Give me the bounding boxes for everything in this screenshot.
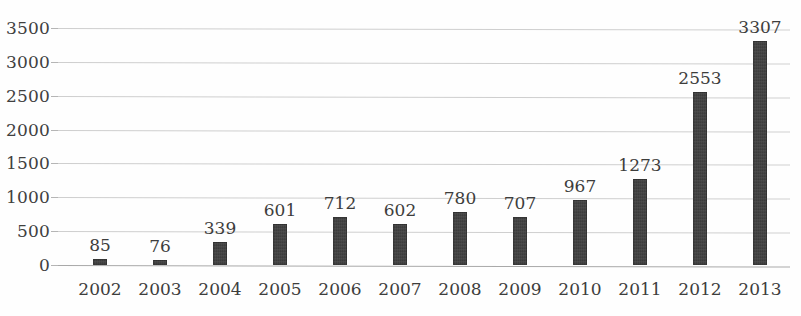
bar-chart: 0500100015002000250030003500 85200276200… bbox=[0, 0, 801, 316]
bar-group: 7122006 bbox=[310, 0, 370, 316]
y-axis: 0500100015002000250030003500 bbox=[0, 0, 50, 316]
bar-value-label: 602 bbox=[370, 202, 430, 219]
bar[interactable] bbox=[213, 242, 227, 265]
y-axis-tick-mark bbox=[51, 96, 58, 97]
bar-group: 6022007 bbox=[370, 0, 430, 316]
bar-group: 33072013 bbox=[730, 0, 790, 316]
bar-group: 25532012 bbox=[670, 0, 730, 316]
bar-value-label: 85 bbox=[70, 237, 130, 254]
x-axis-category-label: 2006 bbox=[310, 281, 370, 298]
y-axis-tick-mark bbox=[51, 231, 58, 232]
bar[interactable] bbox=[333, 217, 347, 265]
bar[interactable] bbox=[513, 217, 527, 265]
bar-group: 852002 bbox=[70, 0, 130, 316]
x-axis-category-label: 2002 bbox=[70, 281, 130, 298]
plot-area: 8520027620033392004601200571220066022007… bbox=[58, 0, 790, 316]
y-axis-tick-mark bbox=[51, 265, 58, 266]
bar-value-label: 601 bbox=[250, 202, 310, 219]
y-axis-tick-mark bbox=[51, 163, 58, 164]
bar-group: 3392004 bbox=[190, 0, 250, 316]
y-axis-tick-mark bbox=[51, 130, 58, 131]
bar-value-label: 967 bbox=[550, 178, 610, 195]
bar-group: 7072009 bbox=[490, 0, 550, 316]
y-axis-tick-label: 3000 bbox=[2, 53, 50, 70]
bars-layer: 8520027620033392004601200571220066022007… bbox=[58, 0, 790, 316]
x-axis-category-label: 2008 bbox=[430, 281, 490, 298]
bar[interactable] bbox=[693, 92, 707, 265]
bar-value-label: 712 bbox=[310, 195, 370, 212]
y-axis-tick-mark bbox=[51, 62, 58, 63]
y-axis-tick-label: 2000 bbox=[2, 121, 50, 138]
y-axis-tick-mark bbox=[51, 197, 58, 198]
x-axis-category-label: 2013 bbox=[730, 281, 790, 298]
bar-value-label: 339 bbox=[190, 220, 250, 237]
x-axis-category-label: 2007 bbox=[370, 281, 430, 298]
bar-group: 6012005 bbox=[250, 0, 310, 316]
y-axis-tick-mark bbox=[51, 28, 58, 29]
bar-value-label: 707 bbox=[490, 195, 550, 212]
bar[interactable] bbox=[453, 212, 467, 265]
x-axis-category-label: 2009 bbox=[490, 281, 550, 298]
bar[interactable] bbox=[753, 41, 767, 265]
y-axis-tick-label: 2500 bbox=[2, 87, 50, 104]
bar[interactable] bbox=[393, 224, 407, 265]
y-axis-tick-label: 1000 bbox=[2, 189, 50, 206]
x-axis-category-label: 2012 bbox=[670, 281, 730, 298]
x-axis-category-label: 2003 bbox=[130, 281, 190, 298]
bar-group: 12732011 bbox=[610, 0, 670, 316]
x-axis-category-label: 2011 bbox=[610, 281, 670, 298]
bar-group: 7802008 bbox=[430, 0, 490, 316]
bar[interactable] bbox=[153, 260, 167, 265]
bar-value-label: 1273 bbox=[610, 157, 670, 174]
x-axis-category-label: 2005 bbox=[250, 281, 310, 298]
bar-value-label: 780 bbox=[430, 190, 490, 207]
y-axis-tick-label: 3500 bbox=[2, 20, 50, 37]
bar[interactable] bbox=[633, 179, 647, 265]
bar-group: 762003 bbox=[130, 0, 190, 316]
y-axis-tick-label: 500 bbox=[2, 223, 50, 240]
bar[interactable] bbox=[573, 200, 587, 265]
y-axis-tick-label: 0 bbox=[2, 257, 50, 274]
bar-value-label: 3307 bbox=[730, 19, 790, 36]
bar[interactable] bbox=[273, 224, 287, 265]
bar-value-label: 76 bbox=[130, 238, 190, 255]
bar-group: 9672010 bbox=[550, 0, 610, 316]
bar[interactable] bbox=[93, 259, 107, 265]
bar-value-label: 2553 bbox=[670, 70, 730, 87]
y-axis-tick-label: 1500 bbox=[2, 155, 50, 172]
x-axis-category-label: 2010 bbox=[550, 281, 610, 298]
x-axis-category-label: 2004 bbox=[190, 281, 250, 298]
